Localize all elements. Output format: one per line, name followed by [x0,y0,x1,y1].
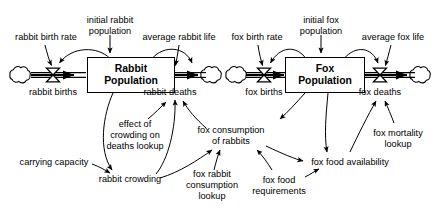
link-rabbit-birth-rate-to-births [45,45,52,66]
stock-fox-population-label: Fox Population [298,63,352,88]
link-average-rabbit-life-to-deaths [176,45,180,66]
link-fox-population-to-food-availability [325,93,328,152]
cloud-fox-sink [410,67,430,83]
link-crowding-lookup-to-rabbit-deaths [148,102,166,119]
link-rabbit-population-to-crowding [103,93,113,170]
cloud-rabbit-sink [201,67,221,83]
link-fox-consumption-to-rabbit-deaths [183,101,206,128]
system-dynamics-diagram: Rabbit Population Fox Population rabbit … [0,0,440,217]
stock-rabbit-population[interactable]: Rabbit Population [87,57,175,93]
flow-pipe-rabbit-births [31,73,86,78]
link-rabbit-crowding-to-fox-consumption [160,150,212,178]
cloud-rabbit-source [10,67,30,83]
link-average-fox-life-to-deaths [386,45,392,66]
link-fox-food-requirements-to-food-availability [305,169,319,177]
stock-fox-population[interactable]: Fox Population [285,57,365,93]
link-fox-mortality-lookup-to-fox-deaths [385,101,394,123]
link-fox-population-to-consumption [280,93,305,119]
link-fox-birth-rate-to-births [258,45,263,66]
link-fox-consumption-to-food-availability [266,146,303,161]
link-fox-rabbit-consumption-lookup-to-consumption [214,150,220,170]
link-fox-food-requirements-to-consumption [257,150,272,170]
link-rabbit-crowding-to-deaths [156,100,175,174]
stock-rabbit-population-label: Rabbit Population [104,63,158,88]
link-fox-food-availability-to-fox-deaths [350,101,376,152]
flow-pipe-fox-deaths [365,73,415,78]
diagram-canvas [0,0,440,217]
cloud-fox-source [226,67,246,83]
link-carrying-capacity-to-crowding [92,164,110,173]
